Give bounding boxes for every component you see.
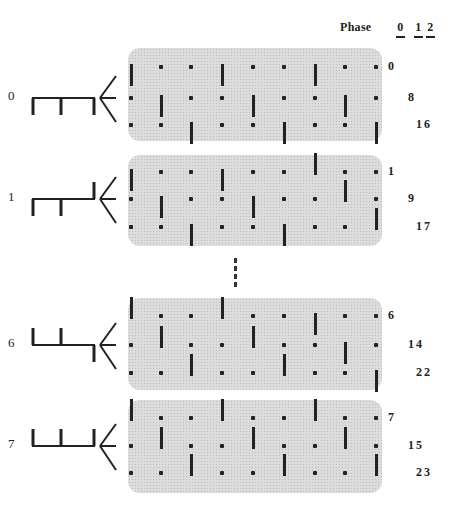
grid-dot [282,170,286,174]
pulse-bar [283,454,286,476]
pulse-bar [314,64,317,86]
grid-dot [220,197,224,201]
phase-1: 1 [414,20,423,38]
pulse-bar [221,297,224,319]
phase-index-label: 7 [8,436,15,452]
pulse-bar [130,64,133,86]
grid-dot [343,471,347,475]
index-label: 22 [416,365,432,380]
grid-dot [282,197,286,201]
grid-dot [313,444,317,448]
grid-dot [313,225,317,229]
grid-dot [313,123,317,127]
pulse-bar [160,95,163,117]
grid-dot [220,444,224,448]
index-label: 14 [408,337,424,352]
pulse-bar [252,95,255,117]
index-label: 6 [388,308,396,323]
pulse-bar [283,354,286,376]
index-label: 23 [416,465,432,480]
grid-dot [313,197,317,201]
pulse-bar [375,370,378,392]
grid-dot [374,444,378,448]
grid-dot [343,371,347,375]
grid-dot [282,444,286,448]
grid-dot [313,471,317,475]
grid-dot [220,371,224,375]
pulse-bar [314,313,317,335]
grid-dot [251,225,255,229]
pulse-bar [375,122,378,144]
index-label: 1 [388,164,396,179]
grid-dot [189,343,193,347]
grid-dot [282,314,286,318]
pulse-bar [252,326,255,348]
grid-dot [159,225,163,229]
grid-dot [220,343,224,347]
grid-dot [282,65,286,69]
index-label: 16 [416,117,432,132]
grid-dot [374,343,378,347]
grid-dot [189,416,193,420]
grid-dot [189,96,193,100]
phase-2: 2 [426,20,435,38]
grid-dot [343,123,347,127]
grid-dot [343,65,347,69]
grid-dot [159,123,163,127]
grid-dot [251,471,255,475]
grid-dot [189,170,193,174]
pulse-bar [344,95,347,117]
index-label: 0 [388,59,396,74]
grid-dot [251,170,255,174]
grid-dot [282,96,286,100]
grid-dot [343,416,347,420]
grid-dot [313,343,317,347]
grid-dot [189,444,193,448]
pulse-bar [130,399,133,421]
pulse-bar [221,64,224,86]
pulse-bar [221,399,224,421]
pulse-bar [344,342,347,364]
pulse-bar [221,169,224,191]
grid-dot [343,170,347,174]
phase-index-label: 0 [8,88,15,104]
grid-dot [159,170,163,174]
pulse-bar [344,180,347,202]
ellipsis-divider [234,258,237,290]
grid-dot [220,471,224,475]
comb-waveform-icon [20,305,130,385]
grid-dot [251,416,255,420]
grid-dot [282,416,286,420]
phase-0: 0 [396,20,405,38]
grid-dot [159,65,163,69]
pulse-bar [375,208,378,230]
grid-dot [159,314,163,318]
index-label: 15 [408,438,424,453]
grid-dot [220,123,224,127]
grid-dot [374,96,378,100]
grid-dot [220,96,224,100]
pulse-bar [314,399,317,421]
pulse-bar [160,196,163,218]
grid-dot [159,371,163,375]
pulse-bar [190,224,193,246]
grid-dot [374,65,378,69]
pulse-bar [160,326,163,348]
grid-dot [374,197,378,201]
grid-dot [251,123,255,127]
grid-dot [251,314,255,318]
pulse-bar [190,454,193,476]
phase-index-label: 6 [8,335,15,351]
comb-waveform-icon [20,159,130,239]
pulse-bar [160,427,163,449]
pulse-bar [283,224,286,246]
grid-dot [159,416,163,420]
grid-dot [313,96,317,100]
grid-dot [251,65,255,69]
index-label: 9 [408,191,416,206]
pulse-bar [283,122,286,144]
grid-dot [220,225,224,229]
grid-dot [189,314,193,318]
phase-label: Phase [340,20,372,35]
grid-dot [282,343,286,347]
